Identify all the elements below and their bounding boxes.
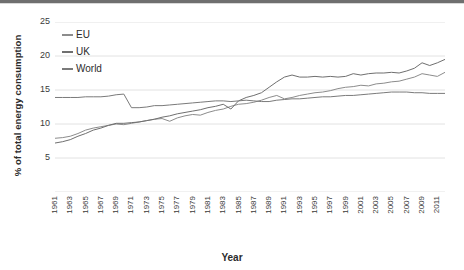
legend-swatch-icon <box>62 34 73 36</box>
x-tick-label: 1975 <box>158 196 166 214</box>
x-tick-label: 1991 <box>280 196 288 214</box>
x-tick-label: 2009 <box>418 196 426 214</box>
legend-item-eu[interactable]: EU <box>62 26 102 43</box>
x-tick-label: 1983 <box>219 196 227 214</box>
y-tick-label: 20 <box>26 50 50 60</box>
y-tick-label: 10 <box>26 118 50 128</box>
plot-area <box>55 22 445 192</box>
legend-label: World <box>76 63 102 74</box>
series-line-uk <box>55 59 445 143</box>
y-tick-label: 15 <box>26 84 50 94</box>
x-tick-label: 1977 <box>173 196 181 214</box>
legend-swatch-icon <box>62 68 73 70</box>
plot-svg <box>55 22 445 192</box>
x-tick-label: 2001 <box>357 196 365 214</box>
legend-swatch-icon <box>62 51 73 53</box>
legend-label: EU <box>76 29 90 40</box>
x-tick-label: 1985 <box>235 196 243 214</box>
x-tick-label: 1993 <box>296 196 304 214</box>
x-axis-title: Year <box>0 252 464 263</box>
x-tick-label: 1987 <box>250 196 258 214</box>
y-tick-label: 25 <box>26 16 50 26</box>
y-axis-tick-labels: 510152025 <box>24 0 50 270</box>
x-tick-label: 1995 <box>311 196 319 214</box>
x-tick-label: 2007 <box>403 196 411 214</box>
series-lines <box>55 59 445 143</box>
x-tick-label: 2003 <box>372 196 380 214</box>
legend-item-world[interactable]: World <box>62 60 102 77</box>
x-tick-label: 1971 <box>127 196 135 214</box>
series-line-eu <box>55 72 445 138</box>
x-tick-label: 1967 <box>97 196 105 214</box>
legend-label: UK <box>76 46 90 57</box>
gridlines <box>55 22 445 192</box>
x-tick-label: 1981 <box>204 196 212 214</box>
x-tick-label: 2011 <box>433 196 441 213</box>
x-tick-label: 1989 <box>265 196 273 214</box>
x-axis-tick-labels: 1961196319651967196919711973197519771979… <box>55 196 445 250</box>
x-tick-label: 1963 <box>66 196 74 214</box>
line-chart: % of total energy consumption 510152025 … <box>0 0 464 270</box>
x-tick-label: 1999 <box>342 196 350 214</box>
series-line-world <box>55 92 445 108</box>
x-tick-label: 1969 <box>112 196 120 214</box>
x-tick-label: 1973 <box>143 196 151 214</box>
y-axis-title: % of total energy consumption <box>12 11 23 201</box>
chart-legend: EUUKWorld <box>62 26 102 77</box>
x-tick-label: 1979 <box>189 196 197 214</box>
x-tick-label: 1961 <box>51 196 59 214</box>
x-tick-label: 1965 <box>82 196 90 214</box>
legend-item-uk[interactable]: UK <box>62 43 102 60</box>
y-tick-label: 5 <box>26 152 50 162</box>
x-tick-label: 2005 <box>387 196 395 214</box>
x-tick-label: 1997 <box>326 196 334 214</box>
